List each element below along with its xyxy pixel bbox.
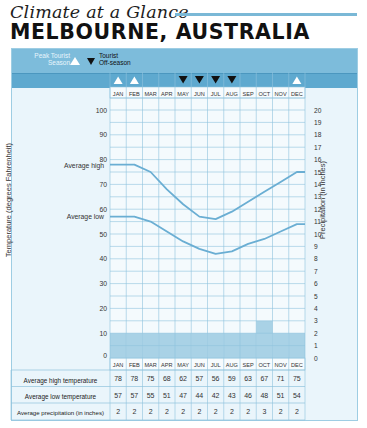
triangle-down-icon [179,76,188,84]
month-label-top: JUN [194,91,205,97]
table-cell: 59 [228,375,236,382]
month-label-top: JUL [211,91,221,97]
table-cell: 2 [214,408,218,415]
month-label-bottom: JAN [113,362,124,368]
month-label-bottom: JUN [194,362,205,368]
month-label-top: AUG [226,91,238,97]
table-cell: 46 [244,392,252,399]
table-cell: 44 [195,392,203,399]
table-cell: 57 [130,392,138,399]
table-cell: 55 [147,392,155,399]
table-cell: 2 [116,408,120,415]
triangle-down-icon [227,76,236,84]
y-tick-left: 70 [99,181,107,188]
y-tick-left: 30 [99,280,107,287]
y-tick-right: 6 [314,280,318,287]
table-cell: 63 [244,375,252,382]
month-label-top: SEP [243,91,254,97]
table-cell: 67 [260,375,268,382]
table-cell: 2 [246,408,250,415]
triangle-up-icon [130,77,139,85]
table-cell: 2 [149,408,153,415]
month-label-bottom: OCT [258,362,270,368]
table-cell: 51 [277,392,285,399]
precip-bar [256,321,272,358]
y-tick-left: 40 [99,255,107,262]
table-cell: 2 [279,408,283,415]
triangle-down-icon [211,76,220,84]
month-label-bottom: MAY [177,362,189,368]
month-label-top: FEB [129,91,140,97]
y-tick-right: 0 [314,355,318,362]
y-tick-left: 20 [99,305,107,312]
month-label-bottom: SEP [243,362,254,368]
series-label-low: Average low [24,213,104,220]
table-cell: 75 [147,375,155,382]
y-tick-left: 0 [103,352,107,359]
table-cell: 2 [197,408,201,415]
table-cell: 3 [262,408,266,415]
month-label-top: JAN [113,91,124,97]
triangle-down-icon [195,76,204,84]
month-label-top: NOV [275,91,287,97]
y-tick-left: 90 [99,131,107,138]
table-cell: 71 [277,375,285,382]
table-cell: 56 [212,375,220,382]
month-label-top: MAY [177,91,189,97]
y-axis-label-left: Temperature (degrees Fahrenheit) [4,120,13,280]
y-tick-left: 50 [99,231,107,238]
table-cell: 62 [179,375,187,382]
month-label-bottom: AUG [226,362,238,368]
table-cell: 78 [130,375,138,382]
table-cell: 57 [114,392,122,399]
table-cell: 2 [230,408,234,415]
table-cell: 75 [293,375,301,382]
table-row-label-precip: Average precipitation (in inches) [11,409,110,416]
month-label-top: OCT [258,91,270,97]
table-cell: 2 [132,408,136,415]
table-cell: 51 [163,392,171,399]
month-label-bottom: MAR [144,362,156,368]
table-row-label-high: Average high temperature [11,377,110,384]
month-label-bottom: JUL [211,362,221,368]
triangle-up-icon [292,77,301,85]
table-cell: 54 [293,392,301,399]
table-cell: 57 [195,375,203,382]
table-cell: 43 [228,392,236,399]
table-cell: 68 [163,375,171,382]
y-axis-label-right: Precipitation (in inches) [318,120,327,280]
table-cell: 48 [260,392,268,399]
table-cell: 2 [181,408,185,415]
month-label-bottom: NOV [275,362,287,368]
y-tick-left: 10 [99,330,107,337]
y-tick-right: 4 [314,305,318,312]
month-label-bottom: APR [161,362,173,368]
y-tick-right: 5 [314,293,318,300]
month-label-bottom: DEC [291,362,303,368]
y-tick-left: 100 [96,107,108,114]
table-cell: 2 [165,408,169,415]
table-cell: 2 [295,408,299,415]
triangle-up-icon [114,77,123,85]
table-row-label-low: Average low temperature [11,393,110,400]
y-tick-left: 60 [99,206,107,213]
month-label-top: APR [161,91,173,97]
y-tick-right: 1 [314,342,318,349]
y-tick-right: 2 [314,330,318,337]
table-cell: 78 [114,375,122,382]
table-cell: 42 [212,392,220,399]
y-tick-right: 20 [314,107,322,114]
month-label-top: MAR [144,91,156,97]
month-label-top: DEC [291,91,303,97]
month-label-bottom: FEB [129,362,140,368]
series-label-high: Average high [24,162,104,169]
table-cell: 47 [179,392,187,399]
y-tick-right: 3 [314,317,318,324]
